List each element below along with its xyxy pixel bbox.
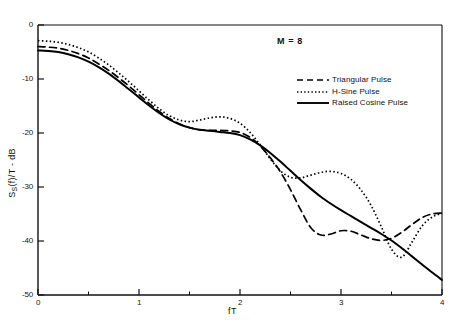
chart-legend: Triangular Pulse H-Sine Pulse Raised Cos… [296,74,446,109]
legend-item-raised-cosine-pulse: Raised Cosine Pulse [296,97,446,109]
y-tick-label: -10 [0,74,33,83]
y-tick-label: 0 [0,20,33,29]
x-tick-label: 4 [428,298,456,307]
y-axis-label-subscript: S [11,187,18,192]
legend-label-raised-cosine-pulse: Raised Cosine Pulse [332,97,408,108]
legend-swatch-dotted-icon [296,86,330,98]
legend-label-triangular-pulse: Triangular Pulse [332,74,392,85]
legend-item-h-sine-pulse: H-Sine Pulse [296,86,446,98]
y-tick-label: -40 [0,236,33,245]
y-axis-label-main: S [7,192,17,198]
plot-canvas [0,0,461,325]
chart-figure: 0-10-20-30-40-50 01234 SS(f)/T - dB fT M… [0,0,461,325]
x-tick-label: 3 [327,298,355,307]
x-tick-label: 0 [24,298,52,307]
y-axis-ticks [38,25,44,295]
legend-swatch-dashed-icon [296,74,330,86]
legend-label-h-sine-pulse: H-Sine Pulse [332,86,380,97]
annotation-m-value: M = 8 [277,36,303,46]
legend-item-triangular-pulse: Triangular Pulse [296,74,446,86]
legend-swatch-solid-icon [296,97,330,109]
x-tick-label: 1 [125,298,153,307]
y-tick-label: -20 [0,128,33,137]
y-axis-label: SS(f)/T - dB [7,137,17,209]
y-axis-label-rest: (f)/T - dB [7,148,17,186]
x-axis-ticks [38,289,442,295]
x-axis-label: fT [228,306,237,316]
